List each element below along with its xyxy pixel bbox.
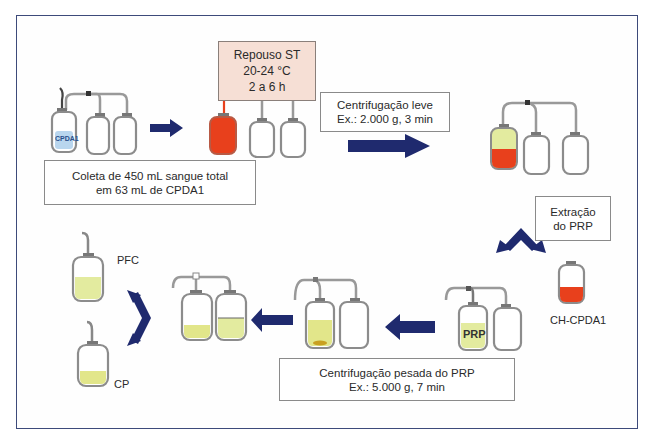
plasma-product-label: PFC xyxy=(117,254,139,266)
collection-line2: em 63 mL de CPDA1 xyxy=(96,183,204,197)
red-cell-product-label: CH-CPDA1 xyxy=(550,314,606,326)
extraction-step-box: Extração do PRP xyxy=(535,196,611,241)
arrow-left-icon xyxy=(251,308,293,332)
light-spin-step-box: Centrifugação leve Ex.: 2.000 g, 3 min xyxy=(320,92,450,132)
extraction-line2: do PRP xyxy=(553,219,593,233)
arrow-right-icon xyxy=(150,119,183,137)
fork-arrow-icon xyxy=(127,290,151,346)
heavy-spin-line2: Ex.: 5.000 g, 7 min xyxy=(349,380,445,394)
collection-bags xyxy=(52,88,136,154)
arrow-right-long-icon xyxy=(348,134,430,158)
collection-step-box: Coleta de 450 mL sangue total em 63 mL d… xyxy=(44,160,256,205)
collection-line1: Coleta de 450 mL sangue total xyxy=(72,169,228,183)
cpda1-bag-label: CPDA1 xyxy=(55,135,79,142)
rest-line2: 20-24 °C xyxy=(243,63,291,79)
arrow-left-icon xyxy=(385,314,435,340)
rest-line1: Repouso ST xyxy=(234,47,301,63)
rest-step-box: Repouso ST 20-24 °C 2 a 6 h xyxy=(218,41,316,101)
rest-line3: 2 a 6 h xyxy=(249,79,286,95)
heavy-spin-step-box: Centrifugação pesada do PRP Ex.: 5.000 g… xyxy=(279,358,515,401)
heavy-spun-bags xyxy=(295,277,368,348)
split-bags xyxy=(173,273,246,340)
plasma-bag xyxy=(73,233,103,301)
prp-bags xyxy=(446,286,521,350)
platelet-product-label: CP xyxy=(114,378,129,390)
heavy-spin-line1: Centrifugação pesada do PRP xyxy=(319,366,474,380)
extraction-line1: Extração xyxy=(550,205,595,219)
prp-bag-label: PRP xyxy=(463,328,486,340)
light-spin-line2: Ex.: 2.000 g, 3 min xyxy=(337,112,433,126)
red-cell-bag xyxy=(559,261,584,303)
light-spin-line1: Centrifugação leve xyxy=(337,98,433,112)
separated-bags xyxy=(491,100,588,174)
platelet-bag xyxy=(78,322,108,386)
rest-bags xyxy=(210,100,305,157)
